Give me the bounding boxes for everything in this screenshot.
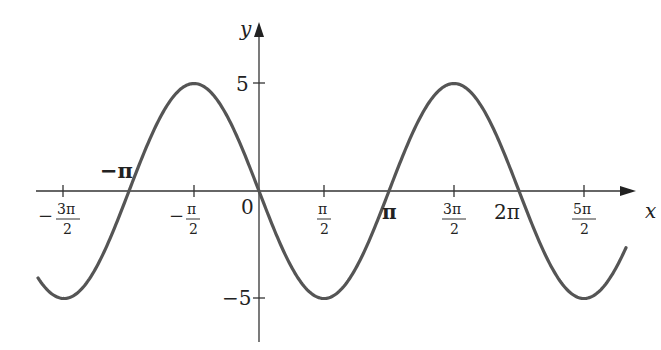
svg-text:3π: 3π <box>57 201 75 217</box>
svg-text:−: − <box>38 205 53 226</box>
y-tick-label-neg5: −5 <box>222 286 251 310</box>
x-axis-label: x <box>645 199 656 223</box>
x-tick-label-3pi-2: 3π 2 <box>442 201 466 237</box>
y-tick-label-5: 5 <box>236 72 249 96</box>
x-axis-arrow-icon <box>620 186 636 196</box>
svg-text:5π: 5π <box>573 201 591 217</box>
x-tick-label-5pi-2: 5π 2 <box>572 201 596 237</box>
x-tick-label-pi: π <box>382 200 397 224</box>
svg-text:2: 2 <box>63 221 72 237</box>
x-tick-label-neg-3pi-2: − 3π 2 <box>38 201 80 237</box>
svg-text:π: π <box>187 201 196 217</box>
x-tick-label-2pi: 2π <box>494 200 520 224</box>
y-axis-label: y <box>239 17 252 41</box>
svg-text:−: − <box>169 205 184 226</box>
chart-svg: x y 5 −5 0 −π π 2π − 3π 2 − π 2 π 2 3π 2… <box>0 0 661 350</box>
svg-text:2: 2 <box>580 221 589 237</box>
svg-text:2: 2 <box>450 221 459 237</box>
svg-text:2: 2 <box>320 221 329 237</box>
svg-text:3π: 3π <box>443 201 461 217</box>
svg-text:π: π <box>318 201 327 217</box>
y-axis-arrow-icon <box>254 22 264 37</box>
chart: x y 5 −5 0 −π π 2π − 3π 2 − π 2 π 2 3π 2… <box>0 0 661 350</box>
x-tick-label-neg-pi: −π <box>100 158 133 183</box>
x-tick-label-pi-2: π 2 <box>317 201 331 237</box>
svg-text:2: 2 <box>189 221 198 237</box>
origin-label: 0 <box>241 195 254 219</box>
x-tick-label-neg-pi-2: − π 2 <box>169 201 200 237</box>
